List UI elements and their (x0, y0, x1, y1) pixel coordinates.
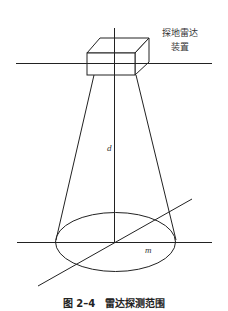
caption-number: 图 2–4 (63, 298, 95, 309)
caption-title: 雷达探测范围 (105, 298, 165, 309)
figure-caption: 图 2–4雷达探测范围 (0, 295, 228, 310)
device-label-line2: 装置 (159, 40, 201, 54)
device-label-line1: 探地雷达 (159, 26, 201, 40)
depth-variable-label: d (107, 143, 112, 153)
radar-device-box (87, 38, 149, 75)
radius-variable-label: m (145, 245, 152, 255)
device-label: 探地雷达 装置 (159, 26, 201, 54)
